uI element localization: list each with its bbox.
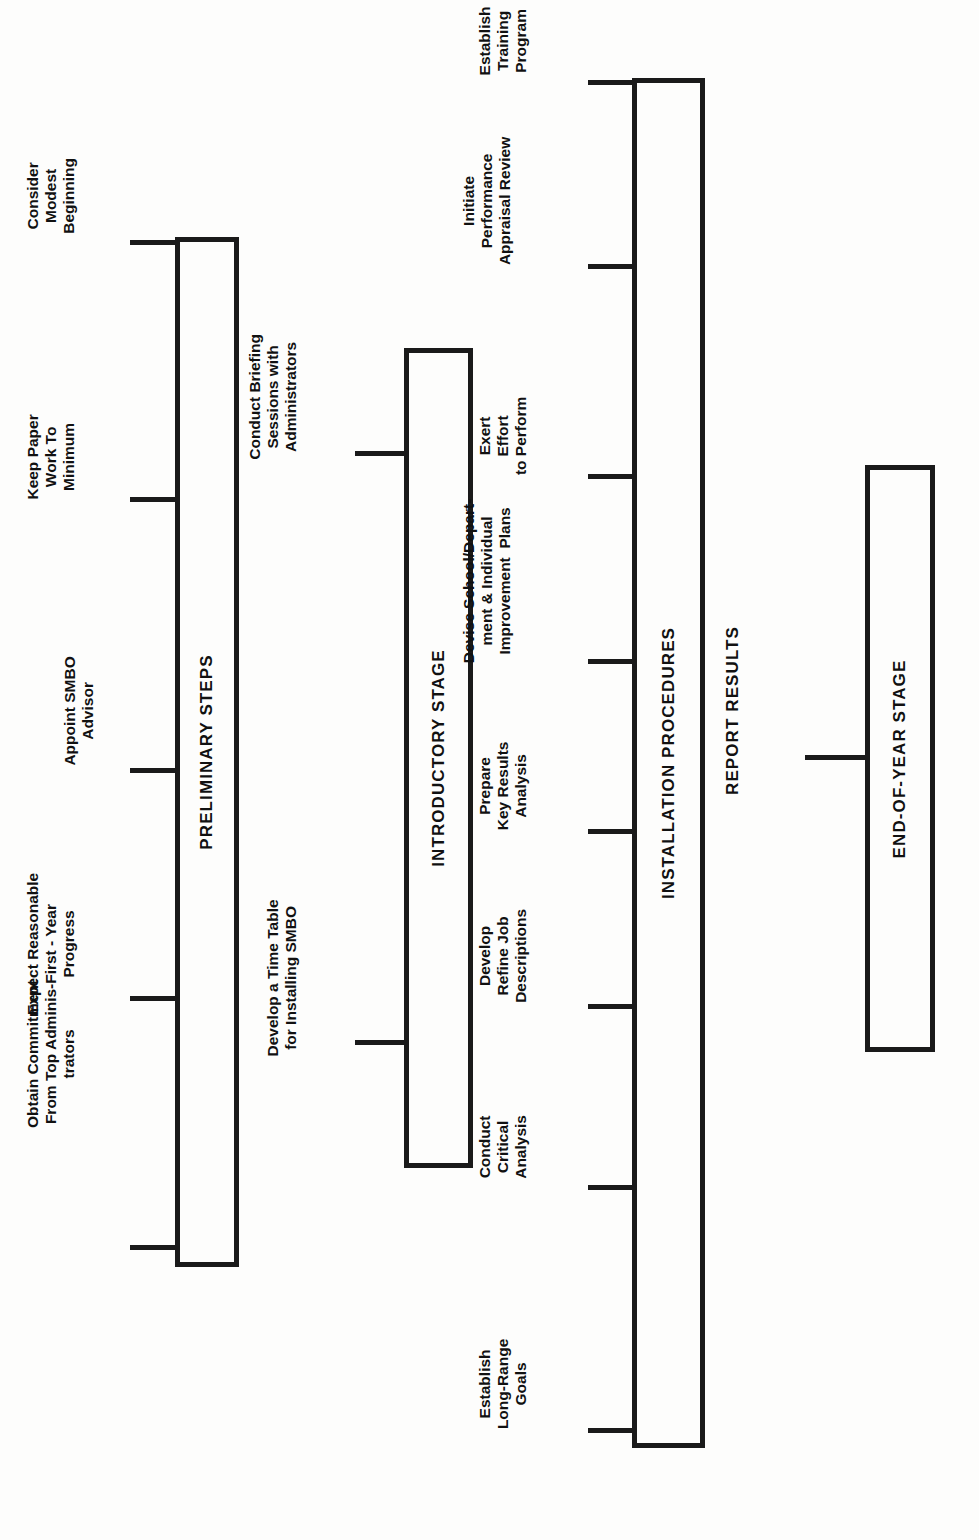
connector-tick-consider-modest-beginning xyxy=(130,240,178,245)
stage-box-preliminary-steps: PRELIMINARY STEPS xyxy=(175,237,239,1267)
stage-label-end-of-year-stage: END-OF-YEAR STAGE xyxy=(890,659,910,858)
stage-label-introductory-stage: INTRODUCTORY STAGE xyxy=(429,649,449,867)
connector-tick-keep-paper-work-minimum xyxy=(130,497,178,502)
step-label-appoint-smbo-advisor: Appoint SMBO Advisor xyxy=(61,636,97,786)
stage-edge-right xyxy=(700,78,705,1448)
step-label-exert-effort-to-perform: Exert Effort to Perform xyxy=(476,361,530,511)
stage-edge-top xyxy=(404,348,473,353)
stage-label-installation-procedures: INSTALLATION PROCEDURES xyxy=(659,627,679,899)
stage-edge-top xyxy=(632,78,705,83)
step-label-establish-training-program: Establish Training Program xyxy=(476,0,530,116)
step-label-expect-reasonable-progress: Expect Reasonable First - Year Progress xyxy=(24,854,78,1034)
step-label-keep-paper-work-minimum: Keep Paper Work To Minimum xyxy=(24,382,78,532)
diagram-canvas: PRELIMINARY STEPS Obtain Commitment From… xyxy=(0,0,979,1540)
stage-edge-left xyxy=(175,237,180,1267)
step-label-establish-long-range-goals: Establish Long-Range Goals xyxy=(476,1304,530,1464)
stage-edge-left xyxy=(404,348,409,1168)
connector-tick-prepare-key-results-analysis xyxy=(588,829,636,834)
section-label-report-results: REPORT RESULTS xyxy=(723,626,743,795)
step-label-prepare-key-results-analysis: Prepare Key Results Analysis xyxy=(476,706,530,866)
connector-tick-develop-refine-job-descriptions xyxy=(588,1004,636,1009)
connector-tick-conduct-critical-analysis xyxy=(588,1185,636,1190)
connector-tick-establish-long-range-goals xyxy=(588,1428,636,1433)
stage-edge-bottom xyxy=(404,1163,473,1168)
step-label-develop-time-table: Develop a Time Table for Installing SMBO xyxy=(264,878,300,1078)
connector-tick-report-results xyxy=(805,755,868,760)
connector-tick-exert-effort-to-perform xyxy=(588,474,636,479)
stage-edge-bottom xyxy=(175,1262,239,1267)
step-label-develop-refine-job-descriptions: Develop Refine Job Descriptions xyxy=(476,871,530,1041)
connector-tick-obtain-commitment xyxy=(130,1245,178,1250)
stage-edge-left xyxy=(632,78,637,1448)
connector-tick-initiate-performance-appraisal xyxy=(588,264,636,269)
stage-box-end-of-year-stage: END-OF-YEAR STAGE xyxy=(865,465,935,1052)
stage-edge-bottom xyxy=(865,1047,935,1052)
connector-tick-expect-reasonable-progress xyxy=(130,996,178,1001)
stage-box-installation-procedures: INSTALLATION PROCEDURES xyxy=(632,78,705,1448)
stage-label-preliminary-steps: PRELIMINARY STEPS xyxy=(197,654,217,849)
connector-tick-establish-training-program xyxy=(588,80,636,85)
step-label-consider-modest-beginning: Consider Modest Beginning xyxy=(24,116,78,276)
step-label-conduct-briefing-sessions: Conduct Briefing Sessions with Administr… xyxy=(246,307,300,487)
stage-edge-bottom xyxy=(632,1443,705,1448)
connector-tick-conduct-briefing-sessions xyxy=(355,451,407,456)
connector-tick-devise-improvement-plans xyxy=(588,659,636,664)
stage-edge-right xyxy=(930,465,935,1052)
stage-edge-right xyxy=(234,237,239,1267)
connector-tick-develop-time-table xyxy=(355,1040,407,1045)
stage-edge-top xyxy=(865,465,935,470)
connector-tick-appoint-smbo-advisor xyxy=(130,768,178,773)
step-label-initiate-performance-appraisal: Initiate Performance Appraisal Review xyxy=(460,101,514,301)
step-label-conduct-critical-analysis: Conduct Critical Analysis xyxy=(476,1072,530,1222)
stage-edge-top xyxy=(175,237,239,242)
